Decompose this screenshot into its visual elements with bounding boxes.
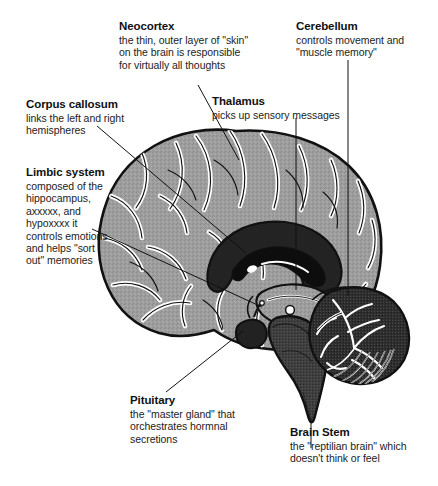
- callout-thalamus-body: picks up sensory messages: [212, 109, 340, 121]
- callout-thalamus-title: Thalamus: [212, 95, 340, 108]
- callout-neocortex-body: the thin, outer layer of "skin" on the b…: [119, 34, 248, 71]
- callout-neocortex: Neocortex the thin, outer layer of "skin…: [119, 20, 248, 71]
- leader-line-pituitary: [166, 331, 243, 392]
- callout-cerebellum-title: Cerebellum: [296, 20, 404, 33]
- callout-limbic-system-body: composed of the hippocampus, axxxxx, and…: [26, 180, 107, 267]
- callout-neocortex-title: Neocortex: [119, 20, 248, 33]
- callout-corpus-callosum: Corpus callosum links the left and right…: [26, 98, 124, 137]
- callout-corpus-callosum-body: links the left and right hemispheres: [26, 112, 124, 137]
- callout-cerebellum-body: controls movement and "muscle memory": [296, 34, 404, 59]
- callout-cerebellum: Cerebellum controls movement and "muscle…: [296, 20, 404, 59]
- callout-pituitary-title: Pituitary: [130, 394, 235, 407]
- callout-brain-stem-body: the "reptilian brain" which doesn't thin…: [290, 440, 406, 465]
- callout-limbic-system: Limbic system composed of the hippocampu…: [26, 166, 107, 267]
- callout-limbic-system-title: Limbic system: [26, 166, 107, 179]
- callout-corpus-callosum-title: Corpus callosum: [26, 98, 124, 111]
- cerebrum-illustration: [99, 130, 409, 423]
- callout-pituitary-body: the "master gland" that orchestrates hor…: [130, 408, 235, 445]
- callout-brain-stem: Brain Stem the "reptilian brain" which d…: [290, 426, 406, 465]
- callout-thalamus: Thalamus picks up sensory messages: [212, 95, 340, 121]
- interthalamic-adhesion: [286, 306, 295, 315]
- callout-brain-stem-title: Brain Stem: [290, 426, 406, 439]
- callout-pituitary: Pituitary the "master gland" that orches…: [130, 394, 235, 445]
